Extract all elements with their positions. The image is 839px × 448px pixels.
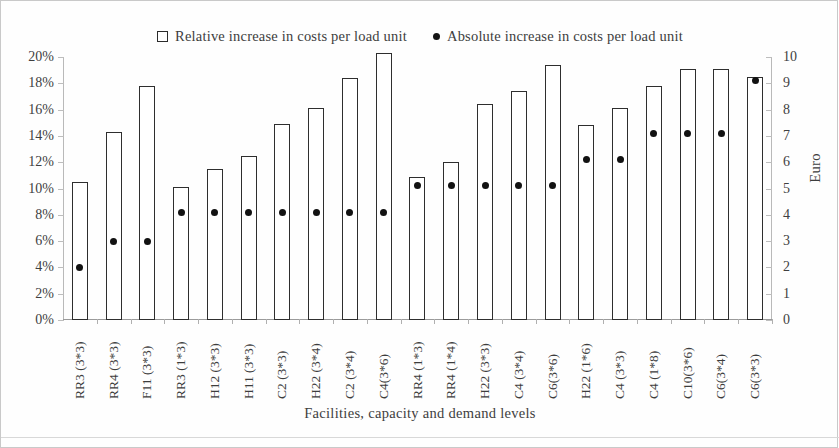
plot-area: 0%2%4%6%8%10%12%14%16%18%20% 01234567891… xyxy=(63,57,772,320)
x-axis-tick-label: C4(3*6) xyxy=(376,327,392,399)
chart-category-group xyxy=(637,57,671,320)
series-container xyxy=(63,57,772,320)
x-axis-tick-label: F11 (3*3) xyxy=(139,327,155,399)
y-axis-left-tick-label: 8% xyxy=(35,207,54,223)
chart-category-group xyxy=(434,57,468,320)
data-point-dot xyxy=(752,77,759,84)
x-axis-tick-label: H22 (3*4) xyxy=(308,327,324,399)
y-axis-left-tick-label: 20% xyxy=(28,49,54,65)
chart-category-group xyxy=(299,57,333,320)
y-axis-right-tick-label: 4 xyxy=(783,207,790,223)
legend-item-absolute: Absolute increase in costs per load unit xyxy=(433,28,683,45)
x-axis-tick-label: RR4 (1*4) xyxy=(443,327,459,399)
x-axis-tick-label: H22 (3*3) xyxy=(477,327,493,399)
y-axis-right-tick-label: 10 xyxy=(783,49,797,65)
bar xyxy=(409,177,425,320)
x-axis-tick-label: C4 (1*8) xyxy=(646,327,662,399)
square-marker-icon xyxy=(157,31,168,42)
bar xyxy=(342,78,358,320)
x-axis-tick-label: RR4 (1*3) xyxy=(410,327,426,399)
bar xyxy=(173,187,189,320)
bar xyxy=(376,53,392,320)
chart-category-group xyxy=(603,57,637,320)
bar xyxy=(274,124,290,320)
bar xyxy=(612,108,628,320)
y-axis-left-tick-label: 4% xyxy=(35,259,54,275)
bar xyxy=(477,104,493,320)
bar xyxy=(578,125,594,320)
y-axis-left-tick-label: 16% xyxy=(28,102,54,118)
y-axis-right-tick-label: 6 xyxy=(783,154,790,170)
chart-category-group xyxy=(97,57,131,320)
y-axis-left-tick-label: 12% xyxy=(28,154,54,170)
data-point-dot xyxy=(245,209,252,216)
x-axis-tick-label: RR3 (3*3) xyxy=(72,327,88,399)
bar xyxy=(713,69,729,320)
chart-category-group xyxy=(232,57,266,320)
chart-category-group xyxy=(502,57,536,320)
data-point-dot xyxy=(583,156,590,163)
data-point-dot xyxy=(617,156,624,163)
x-axis-tick-label: RR4 (3*3) xyxy=(106,327,122,399)
y-axis-right-tick-label: 8 xyxy=(783,102,790,118)
data-point-dot xyxy=(684,130,691,137)
chart-category-group xyxy=(63,57,97,320)
chart-category-group xyxy=(704,57,738,320)
y-axis-left-tick-label: 6% xyxy=(35,233,54,249)
x-axis-tick-label: H22 (1*6) xyxy=(578,327,594,399)
x-axis-title: Facilities, capacity and demand levels xyxy=(1,405,839,422)
data-point-dot xyxy=(718,130,725,137)
chart-category-group xyxy=(401,57,435,320)
bar xyxy=(747,77,763,320)
data-point-dot xyxy=(144,238,151,245)
bar xyxy=(72,182,88,320)
x-axis-tick-label: RR3 (1*3) xyxy=(173,327,189,399)
bar xyxy=(241,156,257,320)
y-axis-left-tick xyxy=(58,320,64,321)
y-axis-right-tick-label: 3 xyxy=(783,233,790,249)
x-axis-tick-label: C4 (3*4) xyxy=(511,327,527,399)
chart-category-group xyxy=(131,57,165,320)
dot-marker-icon xyxy=(433,33,440,40)
y-axis-right-title: Euro xyxy=(807,153,824,183)
chart-category-group xyxy=(367,57,401,320)
data-point-dot xyxy=(110,238,117,245)
legend-label-relative: Relative increase in costs per load unit xyxy=(175,28,407,45)
bar xyxy=(646,86,662,320)
x-axis-tick-label: C6(3*4) xyxy=(713,327,729,399)
x-axis-tick-label: C2 (3*4) xyxy=(342,327,358,399)
chart-legend: Relative increase in costs per load unit… xyxy=(1,25,839,47)
chart-category-group xyxy=(266,57,300,320)
chart-category-group xyxy=(738,57,772,320)
x-axis-tick xyxy=(772,319,773,324)
data-point-dot xyxy=(482,182,489,189)
x-axis-tick-label: C2 (3*3) xyxy=(274,327,290,399)
chart-category-group xyxy=(569,57,603,320)
y-axis-right-tick-label: 1 xyxy=(783,286,790,302)
data-point-dot xyxy=(279,209,286,216)
y-axis-left-tick-label: 2% xyxy=(35,286,54,302)
y-axis-right-tick-label: 9 xyxy=(783,75,790,91)
x-axis-tick-label: C6(3*3) xyxy=(747,327,763,399)
data-point-dot xyxy=(178,209,185,216)
chart-category-group xyxy=(333,57,367,320)
bottom-rule xyxy=(1,437,839,438)
bar xyxy=(545,65,561,320)
bar xyxy=(511,91,527,320)
y-axis-left-tick-label: 0% xyxy=(35,312,54,328)
y-axis-left-tick-label: 10% xyxy=(28,181,54,197)
data-point-dot xyxy=(380,209,387,216)
y-axis-right-tick-label: 0 xyxy=(783,312,790,328)
legend-label-absolute: Absolute increase in costs per load unit xyxy=(447,28,683,45)
bar xyxy=(139,86,155,320)
x-axis-tick-label: C4 (3*3) xyxy=(612,327,628,399)
legend-item-relative: Relative increase in costs per load unit xyxy=(157,28,407,45)
bar xyxy=(680,69,696,320)
y-axis-right-tick-label: 2 xyxy=(783,259,790,275)
x-axis-tick-label: C10(3*6) xyxy=(680,327,696,399)
chart-category-group xyxy=(164,57,198,320)
bar xyxy=(106,132,122,320)
chart-category-group xyxy=(536,57,570,320)
y-axis-left-tick-label: 14% xyxy=(28,128,54,144)
